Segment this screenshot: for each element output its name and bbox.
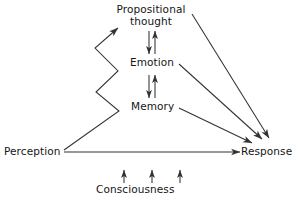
node-label-propositional-thought-line1: Propositional	[117, 3, 186, 15]
node-label-consciousness: Consciousness	[96, 184, 174, 196]
node-label-propositional-thought: Propositional thought	[113, 3, 189, 27]
edge-memory-to-response	[179, 108, 252, 143]
node-label-response: Response	[241, 146, 292, 158]
node-label-propositional-thought-line2: thought	[130, 15, 172, 27]
diagram-canvas: Propositional thought Emotion Memory Per…	[0, 0, 299, 202]
node-label-memory: Memory	[131, 101, 174, 113]
node-label-perception: Perception	[4, 146, 61, 158]
edge-perception-to-propositional-thought	[64, 28, 119, 150]
node-label-emotion: Emotion	[130, 57, 174, 69]
